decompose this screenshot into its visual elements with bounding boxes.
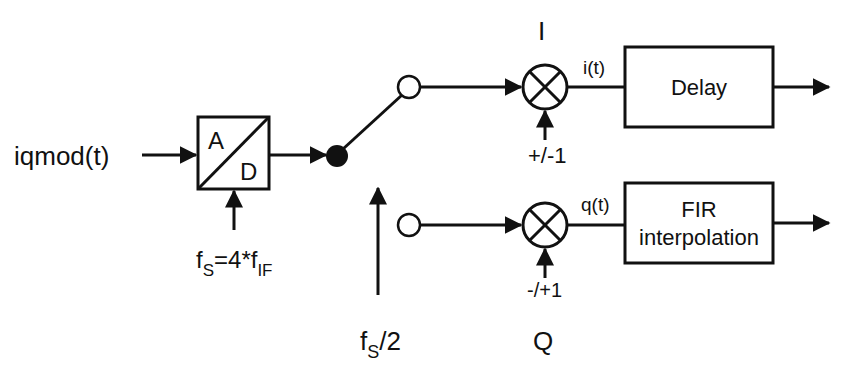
i-mixer-input-label: +/-1: [528, 143, 567, 168]
input-signal-label: iqmod(t): [14, 141, 109, 171]
switch-contact-i: [398, 76, 420, 98]
switch-control-label: fS/2: [360, 326, 401, 362]
iq-demodulator-diagram: iqmod(t) A D fS=4*fIF fS/2 I +/-1 i(t) D…: [0, 0, 844, 370]
switch-arm: [343, 95, 402, 149]
q-signal-label: q(t): [581, 194, 610, 215]
i-channel-label: I: [538, 16, 545, 46]
q-mixer-input-label: -/+1: [527, 279, 562, 301]
q-mixer-icon: [523, 203, 567, 247]
i-mixer-icon: [523, 65, 567, 109]
sampling-frequency-label: fS=4*fIF: [196, 246, 273, 280]
fir-block-label-line2: interpolation: [639, 225, 759, 250]
switch-contact-q: [398, 214, 420, 236]
delay-block-label: Delay: [671, 75, 727, 100]
q-branch: -/+1 Q q(t) FIR interpolation: [420, 183, 829, 356]
q-channel-label: Q: [533, 326, 553, 356]
fir-interpolation-block: [625, 183, 773, 263]
adc-block: A D: [198, 117, 269, 189]
i-signal-label: i(t): [583, 57, 605, 78]
adc-label-d: D: [240, 158, 257, 185]
i-branch: I +/-1 i(t) Delay: [420, 16, 829, 168]
adc-label-a: A: [208, 127, 224, 154]
fir-block-label-line1: FIR: [681, 197, 716, 222]
